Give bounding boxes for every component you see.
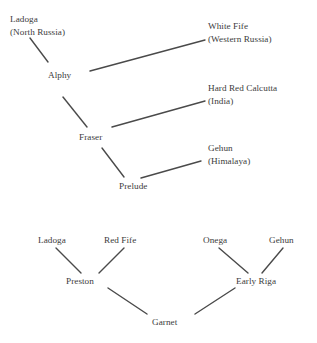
node-name-ladoga-bottom: Ladoga [38, 234, 66, 247]
edge-alphy-to-white-fife [90, 40, 205, 71]
node-name-alphy: Alphy [48, 69, 71, 82]
node-name-red-fife: Red Fife [104, 234, 136, 247]
node-origin-gehun-top: (Himalaya) [208, 155, 250, 168]
node-name-onega: Onega [203, 234, 227, 247]
edge-garnet-to-early-riga [195, 288, 235, 314]
node-name-ladoga-top: Ladoga [10, 13, 65, 26]
node-name-preston: Preston [66, 275, 94, 288]
node-onega: Onega [203, 234, 227, 247]
edge-ladoga-top-to-alphy [30, 38, 48, 62]
edge-group-marquis-lineage [30, 38, 205, 178]
node-preston: Preston [66, 275, 94, 288]
node-garnet: Garnet [152, 316, 177, 329]
node-red-fife: Red Fife [104, 234, 136, 247]
edge-fraser-to-hard-red-calcutta [112, 101, 205, 127]
node-name-hard-red-calcutta: Hard Red Calcutta [208, 82, 277, 95]
node-name-gehun-bottom: Gehun [269, 234, 294, 247]
node-name-gehun-top: Gehun [208, 142, 250, 155]
edge-preston-to-garnet [108, 288, 147, 314]
pedigree-diagram: Ladoga(North Russia)White Fife(Western R… [0, 0, 317, 343]
node-gehun-top: Gehun(Himalaya) [208, 142, 250, 167]
node-origin-ladoga-top: (North Russia) [10, 26, 65, 39]
edge-fraser-to-prelude [102, 148, 124, 177]
node-ladoga-top: Ladoga(North Russia) [10, 13, 65, 38]
node-name-garnet: Garnet [152, 316, 177, 329]
edge-red-fife-to-preston [99, 248, 124, 273]
node-gehun-bottom: Gehun [269, 234, 294, 247]
edge-onega-to-early-riga [219, 248, 248, 273]
node-white-fife: White Fife(Western Russia) [208, 20, 272, 45]
node-prelude: Prelude [119, 180, 147, 193]
edge-ladoga-bottom-to-preston [56, 248, 81, 273]
node-early-riga: Early Riga [236, 275, 276, 288]
node-name-early-riga: Early Riga [236, 275, 276, 288]
node-name-white-fife: White Fife [208, 20, 272, 33]
node-origin-white-fife: (Western Russia) [208, 33, 272, 46]
node-ladoga-bottom: Ladoga [38, 234, 66, 247]
node-name-fraser: Fraser [79, 131, 102, 144]
edge-prelude-to-gehun-top [141, 161, 201, 178]
node-alphy: Alphy [48, 69, 71, 82]
node-fraser: Fraser [79, 131, 102, 144]
node-name-prelude: Prelude [119, 180, 147, 193]
node-origin-hard-red-calcutta: (India) [208, 95, 277, 108]
edge-gehun-bottom-to-early-riga [262, 248, 283, 273]
edge-alphy-to-fraser [63, 97, 87, 127]
node-hard-red-calcutta: Hard Red Calcutta(India) [208, 82, 277, 107]
edge-layer [0, 0, 317, 343]
